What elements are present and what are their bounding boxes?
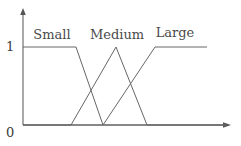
y-axis-tick-label-zero: 0 (6, 126, 14, 139)
y-axis (20, 8, 26, 125)
chart-canvas (0, 0, 241, 146)
curve-medium (23, 47, 226, 125)
curve-label-large: Large (152, 26, 198, 39)
curve-label-medium: Medium (88, 28, 146, 41)
curve-small (23, 47, 226, 125)
fuzzy-membership-chart: 1 0 Small Medium Large (0, 0, 241, 146)
curve-large (23, 47, 207, 125)
y-axis-tick-label-one: 1 (6, 40, 14, 53)
curve-label-small: Small (28, 28, 76, 41)
